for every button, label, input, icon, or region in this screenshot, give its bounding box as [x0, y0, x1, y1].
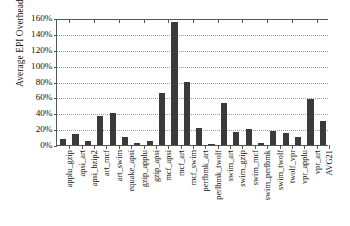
x-tick-bottom [317, 145, 318, 149]
bar-mcf_swim [184, 82, 190, 146]
x-tick-label-art_mcf: art_mcf [102, 150, 111, 176]
bar-applu_gzip [60, 139, 66, 145]
x-tick-bottom [193, 145, 194, 149]
x-tick-bottom [106, 145, 107, 149]
bar-swim_twolf [270, 131, 276, 145]
x-tick-bottom [156, 145, 157, 149]
x-tick-bottom [181, 145, 182, 149]
bar-perlbmk_twolf [208, 144, 214, 145]
bar-gzip_applu [134, 143, 140, 145]
x-axis-labels-group: applu_gzipapsi_artapsi_bzip2art_mcfart_s… [56, 150, 328, 224]
bar-equake_apsi [122, 137, 128, 145]
x-tick-bottom [267, 145, 268, 149]
y-tick-label: 60% [36, 94, 53, 103]
bar-perfbmk_art [196, 128, 202, 145]
chart-container: Average EPI Overhead 0%20%40%60%80%100%1… [0, 0, 350, 226]
y-tick-label: 80% [36, 78, 53, 87]
x-tick-bottom [82, 145, 83, 149]
x-tick-bottom [205, 145, 206, 149]
bar-art_swim [110, 113, 116, 145]
plot-area: 0%20%40%60%80%100%120%140%160% [56, 19, 328, 146]
y-tick-label: 0% [40, 141, 52, 150]
x-tick-label-mcf_art: mcf_art [177, 150, 186, 176]
bars-group [57, 19, 328, 145]
y-tick-label: 160% [31, 14, 52, 23]
x-tick-bottom [168, 145, 169, 149]
x-tick-bottom [144, 145, 145, 149]
bar-swim_mcf [246, 129, 252, 145]
bar-swim_perlbmk [258, 143, 264, 145]
x-tick-bottom [329, 145, 330, 149]
x-tick-label-mcf_swim: mcf_swim [189, 150, 198, 185]
x-tick-label-gzip_applu: gzip_applu [140, 150, 149, 187]
x-tick-label-swim_perlbmk: swim_perlbmk [263, 150, 272, 200]
x-tick-label-swim_mcf: swim_mcf [251, 150, 260, 185]
x-tick-bottom [218, 145, 219, 149]
y-tick-label: 120% [31, 46, 52, 55]
bar-art_mcf [97, 116, 103, 145]
y-tick-label: 40% [36, 110, 53, 119]
x-tick-bottom [242, 145, 243, 149]
x-tick-label-vpr_applu: vpr_applu [300, 150, 309, 184]
bar-apsi_art [72, 134, 78, 145]
x-tick-bottom [255, 145, 256, 149]
x-tick-label-apsi_bzip2: apsi_bzip2 [90, 150, 99, 186]
x-tick-bottom [94, 145, 95, 149]
x-tick-bottom [292, 145, 293, 149]
bar-vpr_applu [295, 137, 301, 145]
x-tick-bottom [280, 145, 281, 149]
bar-mcf_art [171, 22, 177, 145]
x-tick-label-swim_twolf: swim_twolf [276, 150, 285, 190]
x-tick-label-gzip_apsi: gzip_apsi [152, 150, 161, 182]
x-tick-bottom [304, 145, 305, 149]
x-tick-label-apsi_art: apsi_art [78, 150, 87, 177]
x-tick-bottom [230, 145, 231, 149]
y-tick-label: 100% [31, 62, 52, 71]
x-tick-bottom [119, 145, 120, 149]
x-tick-label-vpr_art: vpr_art [313, 150, 322, 174]
bar-apsi_bzip2 [85, 141, 91, 145]
x-tick-label-avg21: AVG21 [325, 150, 334, 175]
bar-gzip_apsi [147, 141, 153, 145]
y-tick-mark [54, 146, 58, 147]
y-tick-label: 20% [36, 126, 53, 135]
x-tick-label-equake_apsi: equake_apsi [127, 150, 136, 191]
x-tick-label-swim_gzip: swim_gzip [238, 150, 247, 187]
bar-mcf_apsi [159, 93, 165, 145]
bar-swim_art [221, 103, 227, 145]
x-tick-label-perlbmk_twolf: perlbmk_twolf [214, 150, 223, 200]
bar-twolf_vpr [283, 133, 289, 145]
x-tick-bottom [131, 145, 132, 149]
bar-vpr_art [307, 99, 313, 145]
y-axis-title: Average EPI Overhead [15, 0, 25, 108]
bar-swim_gzip [233, 132, 239, 145]
bar-avg21 [320, 121, 326, 145]
x-tick-label-applu_gzip: applu_gzip [65, 150, 74, 187]
x-tick-label-mcf_apsi: mcf_apsi [164, 150, 173, 181]
x-tick-label-perfbmk_art: perfbmk_art [201, 150, 210, 191]
x-tick-label-swim_art: swim_art [226, 150, 235, 181]
x-tick-label-art_swim: art_swim [115, 150, 124, 181]
x-tick-bottom [69, 145, 70, 149]
x-tick-label-twolf_vpr: twolf_vpr [288, 150, 297, 183]
y-tick-label: 140% [31, 30, 52, 39]
